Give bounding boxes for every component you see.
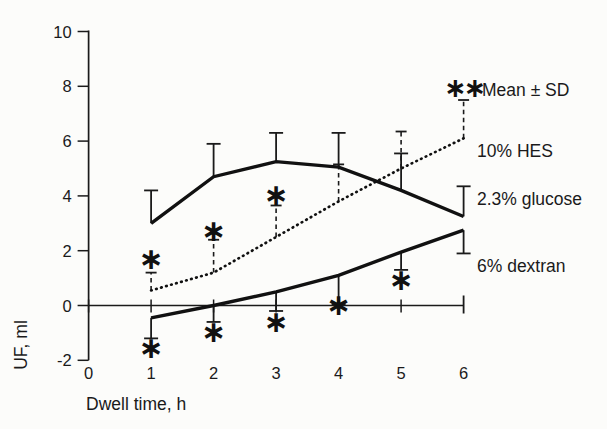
significance-asterisk: ∗∗ (444, 73, 484, 103)
y-tick-label: 4 (62, 187, 71, 205)
significance-asterisk: ∗ (264, 305, 289, 338)
significance-asterisk: ∗ (389, 263, 414, 296)
series-line-1 (151, 162, 464, 224)
x-tick-label: 1 (147, 364, 156, 382)
significance-asterisk: ∗ (201, 214, 226, 247)
significance-asterisk: ∗ (139, 242, 164, 275)
significance-asterisk: ∗ (201, 315, 226, 348)
series-label-dextran: 6% dextran (477, 256, 566, 276)
y-axis-label: UF, ml (11, 320, 31, 370)
x-tick-label: 6 (459, 364, 468, 382)
y-tick-label: 6 (62, 132, 71, 150)
uf-dwell-time-chart: 1086420-20123456∗∗∗∗∗∗∗∗∗∗ Mean ± SD 10%… (0, 0, 607, 429)
plot-area: 1086420-20123456∗∗∗∗∗∗∗∗∗∗ (53, 23, 483, 383)
series-label-glucose: 2.3% glucose (477, 189, 582, 209)
significance-asterisk: ∗ (139, 331, 164, 364)
y-tick-label: 10 (53, 23, 71, 41)
y-tick-label: 2 (62, 242, 71, 260)
x-tick-label: 3 (272, 364, 281, 382)
x-axis-label: Dwell time, h (86, 394, 186, 414)
mean-sd-label: Mean ± SD (482, 80, 569, 100)
y-tick-label: 0 (62, 297, 71, 315)
figure: 1086420-20123456∗∗∗∗∗∗∗∗∗∗ Mean ± SD 10%… (0, 0, 607, 429)
x-tick-label: 0 (84, 364, 93, 382)
y-tick-label: -2 (57, 351, 72, 369)
x-tick-label: 4 (334, 364, 343, 382)
significance-asterisk: ∗ (264, 178, 289, 211)
significance-asterisk: ∗ (326, 288, 351, 321)
y-tick-label: 8 (62, 77, 71, 95)
series-label-hes: 10% HES (477, 141, 553, 161)
x-tick-label: 2 (209, 364, 218, 382)
series-line-2 (151, 230, 464, 318)
series-line-0 (151, 138, 464, 290)
x-tick-label: 5 (397, 364, 406, 382)
